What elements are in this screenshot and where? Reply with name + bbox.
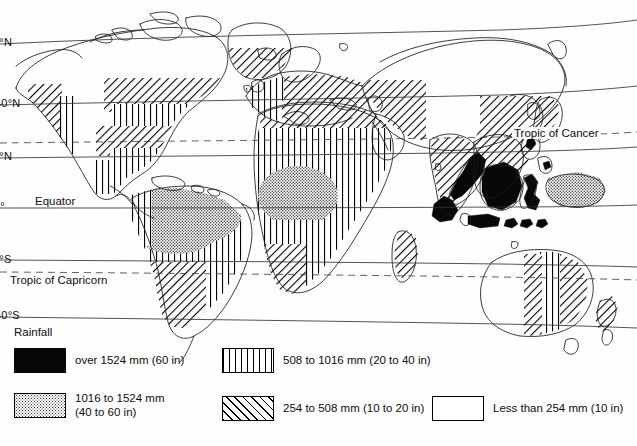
legend-label-under-254: Less than 254 mm (10 in) (493, 402, 623, 416)
legend-label-1016-1524: 1016 to 1524 mm (40 to 60 in) (75, 392, 165, 420)
legend: Rainfall over 1524 mm (60 in) 1016 to 15… (0, 326, 637, 446)
lat-label-20n: 0°N (0, 150, 12, 162)
legend-entry-under-254: Less than 254 mm (10 in) (432, 396, 623, 421)
legend-label-508-1016: 508 to 1016 mm (20 to 40 in) (283, 354, 431, 368)
legend-label-254-508: 254 to 508 mm (10 to 20 in) (283, 402, 424, 416)
legend-title: Rainfall (14, 326, 52, 338)
legend-swatch-white (432, 396, 484, 421)
legend-swatch-vertical-lines (222, 348, 274, 373)
lat-label-20s: 0°S (0, 253, 11, 265)
legend-entry-254-508: 254 to 508 mm (10 to 20 in) (222, 396, 424, 421)
lat-label-40s: 40°S (0, 309, 20, 321)
legend-entry-over-1524: over 1524 mm (60 in) (14, 348, 184, 373)
lat-label-equator: 0° (0, 200, 5, 212)
equator-label: Equator (33, 195, 77, 207)
legend-swatch-solid-black (14, 348, 66, 373)
lat-label-60n: 0°N (0, 36, 12, 48)
legend-swatch-dots (14, 393, 66, 418)
rainfall-world-map: 0°N 40°N 0°N 0° 0°S 40°S Equator Tropic … (0, 0, 637, 446)
legend-entry-508-1016: 508 to 1016 mm (20 to 40 in) (222, 348, 431, 373)
legend-swatch-diagonal-lines (222, 396, 274, 421)
legend-entry-1016-1524: 1016 to 1524 mm (40 to 60 in) (14, 392, 165, 420)
tropic-of-capricorn-label: Tropic of Capricorn (8, 274, 109, 286)
legend-label-over-1524: over 1524 mm (60 in) (75, 354, 184, 368)
lat-label-40n: 40°N (0, 97, 20, 109)
tropic-of-cancer-label: Tropic of Cancer (512, 127, 601, 139)
